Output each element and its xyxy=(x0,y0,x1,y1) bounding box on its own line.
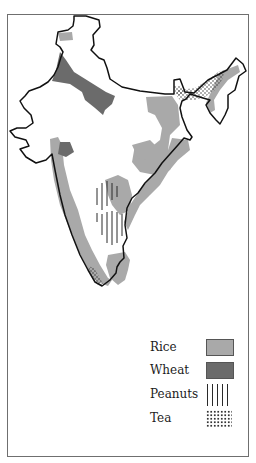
rice-regions xyxy=(50,32,240,286)
legend-label-tea: Tea xyxy=(150,411,171,425)
rice-swatch-icon xyxy=(206,339,234,356)
wheat-regions xyxy=(52,52,115,157)
legend-item-wheat: Wheat xyxy=(150,363,250,383)
legend-label-rice: Rice xyxy=(150,340,177,354)
legend-item-rice: Rice xyxy=(150,340,250,360)
rice-region-kashmir xyxy=(58,32,73,41)
legend-item-tea: Tea xyxy=(150,411,250,431)
peanuts-swatch-icon xyxy=(207,384,231,406)
rice-region-deccan-east xyxy=(105,175,132,215)
rice-region-west-coast xyxy=(50,137,112,286)
tea-swatch-icon xyxy=(206,410,232,427)
legend-item-peanuts: Peanuts xyxy=(150,387,250,407)
legend-label-peanuts: Peanuts xyxy=(150,387,198,401)
wheat-swatch-icon xyxy=(206,362,234,379)
wheat-region-punjab-up xyxy=(52,52,115,115)
legend-label-wheat: Wheat xyxy=(150,363,189,377)
india-outline xyxy=(10,16,246,286)
wheat-region-gujarat xyxy=(58,142,74,157)
